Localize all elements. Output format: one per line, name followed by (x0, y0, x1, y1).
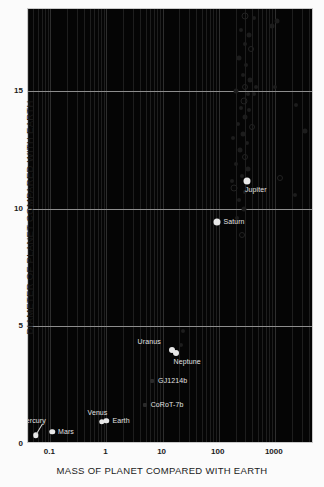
x-tick-label: 1000 (265, 447, 283, 456)
vertical-gridline (48, 9, 49, 442)
data-point (230, 179, 234, 183)
data-point (273, 85, 277, 89)
point-label-saturn: Saturn (223, 218, 244, 225)
vertical-gridline (292, 9, 293, 442)
y-tick-label: 10 (3, 203, 23, 212)
point-label-corot-7b: CoRoT-7b (151, 401, 184, 408)
vertical-gridline (98, 9, 99, 442)
data-point (238, 148, 243, 153)
vertical-gridline (206, 9, 207, 442)
data-point (236, 122, 240, 126)
data-point (239, 106, 243, 110)
data-point (242, 13, 249, 20)
horizontal-gridline (28, 209, 312, 210)
vertical-gridline (106, 9, 107, 442)
data-point (242, 84, 248, 90)
data-point (243, 177, 250, 184)
vertical-gridline (309, 9, 310, 442)
data-point (294, 103, 298, 107)
data-point (277, 175, 283, 181)
vertical-gridline (140, 9, 141, 442)
y-tick-label: 5 (3, 321, 23, 330)
data-point (49, 429, 55, 435)
vertical-gridline (42, 9, 43, 442)
vertical-gridline (150, 9, 151, 442)
point-label-neptune: Neptune (174, 358, 201, 365)
x-tick-label: 100 (211, 447, 224, 456)
vertical-gridline (77, 9, 78, 442)
vertical-gridline (275, 9, 276, 442)
data-point (179, 343, 183, 347)
data-point (247, 77, 252, 82)
data-point (181, 329, 185, 333)
data-point (269, 23, 274, 28)
vertical-gridline (154, 9, 155, 442)
vertical-gridline (245, 9, 246, 442)
data-point (244, 63, 248, 67)
point-label-venus: Venus (88, 409, 108, 416)
vertical-gridline (252, 9, 253, 442)
data-point (239, 232, 245, 238)
vertical-gridline (146, 9, 147, 442)
data-point (241, 206, 246, 211)
vertical-gridline (189, 9, 190, 442)
data-point (233, 89, 238, 94)
vertical-gridline (202, 9, 203, 442)
point-label-mars: Mars (58, 428, 74, 435)
point-label-jupiter: Jupiter (245, 186, 267, 193)
y-tick-label: 0 (3, 439, 23, 448)
vertical-gridline (133, 9, 134, 442)
x-tick-label: 1 (103, 447, 107, 456)
data-point (302, 129, 307, 134)
vertical-gridline (219, 9, 220, 442)
data-point (246, 32, 251, 37)
vertical-gridline (104, 9, 105, 442)
data-point (237, 56, 242, 61)
vertical-gridline (216, 9, 217, 442)
data-point (240, 97, 247, 104)
data-point (239, 28, 243, 32)
data-point (173, 350, 179, 356)
vertical-gridline (236, 9, 237, 442)
data-point (143, 403, 147, 407)
data-point (243, 115, 248, 120)
data-point (237, 198, 241, 202)
exoplanet-mass-diameter-chart: GJ1214bCoRoT-7bMercuryMarsVenusEarthUran… (0, 0, 324, 487)
vertical-gridline (50, 9, 51, 442)
vertical-gridline (67, 9, 68, 442)
data-point (241, 73, 245, 77)
data-point (231, 184, 238, 191)
point-label-uranus: Uranus (138, 338, 161, 345)
vertical-gridline (196, 9, 197, 442)
data-point (246, 92, 250, 96)
data-point (242, 154, 248, 160)
x-tick-label: 0.1 (44, 447, 55, 456)
data-point (231, 136, 235, 140)
point-label-gj1214b: GJ1214b (158, 377, 187, 384)
x-tick-label: 10 (157, 447, 166, 456)
data-point (252, 16, 256, 20)
vertical-gridline (302, 9, 303, 442)
vertical-gridline (258, 9, 259, 442)
data-point (254, 85, 258, 89)
data-point (275, 18, 280, 23)
vertical-gridline (45, 9, 46, 442)
data-point (248, 46, 254, 52)
plot-area: GJ1214bCoRoT-7bMercuryMarsVenusEarthUran… (27, 8, 313, 443)
vertical-gridline (38, 9, 39, 442)
data-point (214, 218, 221, 225)
vertical-gridline (269, 9, 270, 442)
horizontal-gridline (28, 91, 312, 92)
data-point (104, 418, 110, 424)
data-point (247, 108, 251, 112)
data-point (249, 124, 255, 130)
y-tick-label: 15 (3, 86, 23, 95)
data-point (243, 42, 247, 46)
vertical-gridline (266, 9, 267, 442)
data-point (240, 131, 245, 136)
data-point (150, 379, 154, 383)
vertical-gridline (272, 9, 273, 442)
vertical-gridline (210, 9, 211, 442)
data-point (245, 166, 250, 171)
data-point (252, 92, 256, 96)
